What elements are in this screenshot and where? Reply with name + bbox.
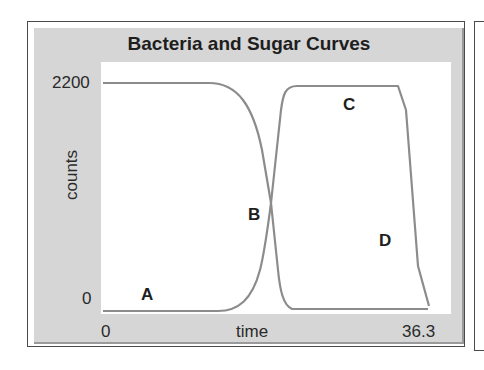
bacteria-curve (103, 86, 429, 311)
annotation-d: D (379, 231, 391, 251)
x-tick-min: 0 (101, 322, 110, 342)
annotation-b: B (248, 205, 260, 225)
x-tick-max: 36.3 (402, 322, 435, 342)
annotation-c: C (343, 95, 355, 115)
x-axis-label: time (236, 322, 268, 342)
annotation-a: A (141, 285, 153, 305)
sugar-curve (103, 83, 428, 309)
